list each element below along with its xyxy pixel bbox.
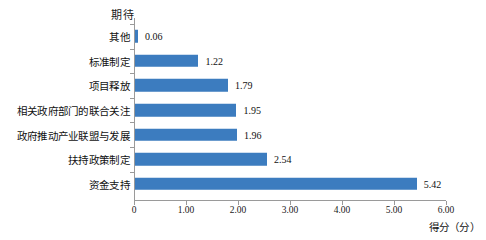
bar-row: 相关政府部门的联合关注1.95 <box>0 98 486 123</box>
category-label: 资金支持 <box>89 176 130 191</box>
plot-area: 01.002.003.004.005.006.00 其他0.06标准制定1.22… <box>0 0 486 240</box>
bar <box>135 30 138 43</box>
bar-value-label: 2.54 <box>274 154 292 165</box>
category-label: 标准制定 <box>89 53 130 68</box>
bar-row: 标准制定1.22 <box>0 49 486 74</box>
x-tick-label: 3.00 <box>282 205 299 215</box>
category-label: 扶持政策制定 <box>68 152 130 167</box>
bar-row: 政府推动产业联盟与发展1.96 <box>0 122 486 147</box>
bar-value-label: 1.96 <box>244 129 262 140</box>
x-axis-title: 得分（分） <box>429 219 481 234</box>
bar-value-label: 1.79 <box>235 80 253 91</box>
bar-row: 扶持政策制定2.54 <box>0 147 486 172</box>
x-tick-label: 6.00 <box>438 205 455 215</box>
bar <box>135 104 236 117</box>
bar-value-label: 1.22 <box>205 55 223 66</box>
bar-chart: 期待 01.002.003.004.005.006.00 其他0.06标准制定1… <box>0 0 486 240</box>
bar-value-label: 1.95 <box>243 105 261 116</box>
bar-value-label: 0.06 <box>145 31 163 42</box>
bar-row: 其他0.06 <box>0 24 486 49</box>
x-tick-label: 1.00 <box>178 205 195 215</box>
x-tick-label: 4.00 <box>334 205 351 215</box>
x-tick-label: 5.00 <box>386 205 403 215</box>
bar <box>135 178 417 191</box>
bar-value-label: 5.42 <box>424 178 442 189</box>
category-label: 其他 <box>109 29 130 44</box>
bar <box>135 55 198 68</box>
category-label: 相关政府部门的联合关注 <box>17 103 130 118</box>
bar-row: 项目释放1.79 <box>0 73 486 98</box>
x-tick-label: 0 <box>132 205 137 215</box>
bar <box>135 153 267 166</box>
bar <box>135 128 237 141</box>
x-tick-label: 2.00 <box>230 205 247 215</box>
category-label: 项目释放 <box>89 78 130 93</box>
bar <box>135 79 228 92</box>
bar-row: 资金支持5.42 <box>0 172 486 197</box>
category-label: 政府推动产业联盟与发展 <box>17 127 130 142</box>
